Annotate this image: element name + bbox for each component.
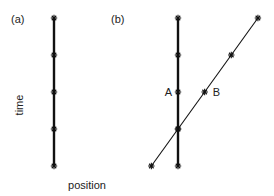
- event-marker: [228, 52, 234, 58]
- x-axis-label: position: [68, 179, 106, 191]
- event-marker: [255, 15, 261, 21]
- event-marker: [175, 52, 181, 58]
- event-marker: [201, 89, 207, 95]
- event-marker: [51, 126, 57, 132]
- event-marker: [51, 163, 57, 169]
- event-marker: [175, 89, 181, 95]
- y-axis-label: time: [13, 95, 25, 116]
- panel-a-label: (a): [11, 13, 24, 25]
- event-marker: [51, 52, 57, 58]
- spacetime-diagram: (a) (b) time position AB: [0, 0, 274, 196]
- event-label-a: A: [165, 86, 173, 98]
- event-marker: [175, 15, 181, 21]
- event-marker: [175, 163, 181, 169]
- event-marker: [51, 89, 57, 95]
- event-marker: [175, 126, 181, 132]
- event-marker: [51, 15, 57, 21]
- event-label-b: B: [213, 86, 220, 98]
- panel-b-label: (b): [111, 13, 124, 25]
- event-marker: [148, 163, 154, 169]
